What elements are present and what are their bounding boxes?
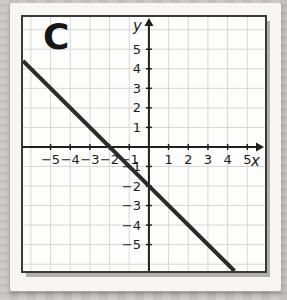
y-tick-label: 4 — [133, 61, 141, 76]
x-axis-arrow-icon — [256, 142, 264, 151]
x-tick-label: −5 — [41, 152, 60, 167]
y-tick-label: −3 — [122, 198, 141, 213]
y-axis-label: y — [132, 17, 143, 35]
y-tick-label: −4 — [122, 218, 141, 233]
y-tick-label: −2 — [122, 179, 141, 194]
x-tick-label: −3 — [80, 152, 99, 167]
y-tick-label: 3 — [133, 81, 141, 96]
page-background: −5−4−3−2−112345−5−4−3−2−112345yx C — [0, 0, 287, 300]
worksheet-card: −5−4−3−2−112345−5−4−3−2−112345yx C — [10, 3, 281, 291]
x-axis-label: x — [250, 152, 260, 170]
graph-label-title: C — [43, 19, 69, 55]
x-tick-label: 2 — [184, 152, 192, 167]
y-tick-label: −5 — [122, 237, 141, 252]
x-tick-label: 1 — [164, 152, 172, 167]
x-tick-label: 3 — [204, 152, 212, 167]
y-tick-label: 5 — [133, 42, 141, 57]
x-tick-label: 4 — [223, 152, 231, 167]
graph-panel: −5−4−3−2−112345−5−4−3−2−112345yx C — [21, 15, 267, 273]
y-axis-arrow-icon — [144, 18, 153, 26]
y-tick-label: 2 — [133, 100, 141, 115]
x-tick-label: −4 — [61, 152, 80, 167]
y-tick-label: 1 — [133, 120, 141, 135]
